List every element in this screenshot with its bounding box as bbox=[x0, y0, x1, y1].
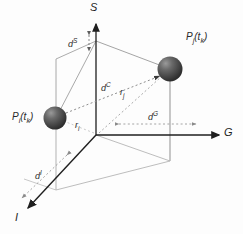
distance-label-d-i: dI bbox=[35, 170, 42, 181]
axis-label-i: I bbox=[15, 212, 18, 223]
distance-label-d-s: dS bbox=[68, 38, 77, 49]
axis-label-s: S bbox=[90, 2, 97, 13]
measure-d-c bbox=[66, 76, 160, 113]
ground-plane-wireframe bbox=[24, 135, 170, 190]
measure-d-i bbox=[22, 155, 67, 198]
distance-label-d-c: dC bbox=[101, 82, 111, 93]
sphere-point-j bbox=[158, 57, 183, 82]
distance-label-d-g: dG bbox=[148, 111, 158, 122]
diagram-canvas: S G I Pi(tk) Pj(tk) dS dC dG dI ri rj bbox=[0, 0, 243, 234]
radius-label-r-j: rj bbox=[120, 88, 124, 99]
box-wireframe bbox=[56, 41, 170, 161]
point-label-i: Pi(tk) bbox=[12, 112, 33, 124]
point-label-j: Pj(tk) bbox=[186, 32, 207, 44]
vector-r-i bbox=[66, 122, 94, 133]
axis-label-g: G bbox=[224, 127, 233, 138]
sphere-point-i bbox=[44, 107, 67, 130]
radius-label-r-i: ri bbox=[75, 121, 79, 132]
drop-lines bbox=[56, 69, 170, 190]
